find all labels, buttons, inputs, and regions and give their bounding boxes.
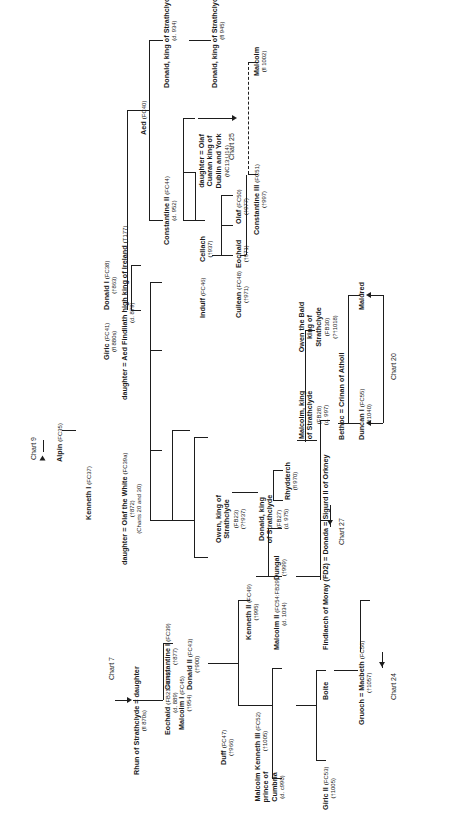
person-dates: (d. c990) [279,764,286,810]
person-olaf-fc50[interactable]: Olaf (FC50) (†977) [235,189,250,224]
person-cuilean[interactable]: Cuilean (FC48) (†971) [235,271,250,318]
person-ref: (FC46) [200,277,206,296]
connector-line [198,118,232,119]
connector-line [150,282,151,520]
person-name: Duff [219,750,228,765]
person-owen-the-bald[interactable]: Owen the Bald king of Strathclyde (FB30)… [298,299,339,355]
person-ref: (FC38) [104,261,110,280]
person-name: Giric II [321,787,330,810]
person-findlaech-donada-sigurd[interactable]: Findlaech of Moray (FD2) = Donada = Sigu… [322,454,330,650]
person-duncan-i[interactable]: Duncan I (FC55) (†1040) [358,389,373,440]
person-kenneth-i[interactable]: Kenneth I (FC37) [85,466,93,520]
chart24-arrow-icon [379,662,385,667]
person-bethoc-crinan[interactable]: Bethoc = Crinan of Atholl [338,353,346,440]
person-ref: (FB30) [324,318,330,336]
connector-line [195,172,196,220]
connector-line [164,520,194,521]
person-dates: (†999) [281,555,288,580]
person-dates: (fl 1002) [261,47,268,76]
person-malcolm-ii[interactable]: Malcolm II (FC54:FB29) (d. 1034) [273,578,288,650]
connector-line [183,220,195,221]
connector-line [296,576,320,577]
person-dates: (†900) [194,639,201,691]
person-constantine-ii[interactable]: Constantine II (FC44) (d. 952) [163,176,178,245]
person-malcolm-fl1002[interactable]: Malcolm (fl 1002) [253,47,268,76]
connector-line [149,40,163,41]
connector-line [43,440,44,452]
xref-chart7[interactable]: Chart 7 [108,657,116,680]
person-ref: (FC53) [323,767,329,786]
person-name: Owen the Bald king of Strathclyde [297,302,323,353]
xref-chart25[interactable]: Chart 25 [228,133,236,160]
connector-line [194,557,208,558]
person-dates: (d. 997) [323,390,330,440]
connector-line [183,118,184,220]
person-donald-strathclyde-fb24[interactable]: Donald, king of Strathclyde (FB24) (fl 9… [211,0,226,88]
person-donald-strathclyde-fb27[interactable]: Donald, king of Strathclyde (FB27) (d. 9… [258,493,290,545]
person-ref: (FC45) [179,676,185,695]
person-name: Findlaech of Moray (FD2) = Donada = Sigu… [321,454,330,650]
connector-line [256,576,268,577]
person-malcolm-strathclyde-fb28[interactable]: Malcolm, king of Strathclyde (FB28) (d. … [298,390,330,440]
person-malcolm-i[interactable]: Malcolm I (FC45) (†954) [178,676,193,730]
connector-line [183,118,195,119]
connector-line [272,668,282,669]
xref-chart24[interactable]: Chart 24 [390,673,398,700]
person-indulf[interactable]: Indulf (FC46) [199,277,207,318]
connector-line [383,295,384,423]
person-dungal[interactable]: Dungal (†999) [273,555,288,580]
person-daughter-olaf-the-white[interactable]: daughter = Olaf the White (FC39a) (†872)… [121,452,144,565]
person-gruoch-macbeth[interactable]: Gruoch = Macbeth (FC56) (†1057) [358,641,373,725]
person-dates: (d. 975) [283,493,290,545]
person-maldred[interactable]: Maldred [358,282,366,310]
connector-line [150,450,162,451]
person-cellach[interactable]: Cellach (†937) [199,236,214,262]
person-ref: (FC41) [104,323,110,342]
person-dates: (†1057) [366,641,373,725]
xref-chart9[interactable]: Chart 9 [30,437,38,460]
person-dates: (?†937) [240,493,247,545]
person-dates: (d. 1034) [281,578,288,650]
person-duff[interactable]: Duff (FC47) (†966) [220,730,235,765]
person-eochaid-971[interactable]: Eochaid (†971) [235,240,250,268]
chart9-arrow-icon [40,456,46,461]
person-kenneth-ii[interactable]: Kenneth II (FC49) (†995) [245,584,260,640]
person-alpin[interactable]: Alpin (FC35) [56,423,64,462]
connector-line [221,225,233,226]
connector-line [195,220,205,221]
person-ref: (FC50) [236,189,242,208]
person-boite[interactable]: Boite [322,682,330,700]
person-dates: (d. 879) [129,226,136,400]
person-name: Duncan I [357,409,366,440]
person-ref: (FC37) [86,466,92,485]
person-owen-strathclyde-fb23[interactable]: Owen, king of Strathclyde (FB23) (?†937) [215,493,247,545]
connector-line [150,520,164,521]
person-donald-strathclyde-fb22[interactable]: Donald, king of Strathclyde (FB22) (d. 9… [163,0,178,88]
person-ref: (FC55) [359,389,365,408]
xref-chart20[interactable]: Chart 20 [390,353,398,380]
person-malcolm-prince-of-cumbria[interactable]: Malcolm prince of Cumbria (d. c990) [254,764,286,810]
person-daughter-olaf-cuaran[interactable]: daughter = Olaf Cuaran king of Dublin an… [198,132,232,190]
connector-line [360,600,370,601]
person-dates: (d. 934) [171,0,178,88]
person-rhun-of-strathclyde[interactable]: Rhun of Strathclyde = daughter (fl 870s) [133,666,148,775]
connector-line [316,670,326,671]
person-name: Rhun of Strathclyde = daughter [132,666,141,775]
xref-chart27[interactable]: Chart 27 [338,518,346,545]
person-giric-ii[interactable]: Giric II (FC53) (†1005) [322,767,337,810]
person-aed[interactable]: Aed (FC40) [140,101,148,135]
person-constantine-iii[interactable]: Constantine III (FC51) (†997) [253,164,268,235]
person-dates: (fl 880s) [111,323,118,360]
person-kenneth-iii[interactable]: Kenneth III (FC52) (†1005) [254,712,269,770]
person-dates: (†995) [253,584,260,640]
connector-line [238,705,250,706]
connector-line [208,663,238,664]
connector-line [189,40,211,41]
person-name: Malcolm I [177,697,186,730]
person-giric[interactable]: Giric (FC41) (fl 880s) [103,323,118,360]
person-rhydderch[interactable]: Rhydderch (fl 970) [284,462,299,500]
person-name: Dungal [272,555,281,580]
person-donald-i[interactable]: Donald I (FC38) (†863) [103,261,118,310]
person-daughter-aed-findliath[interactable]: daughter = Aed Findliath high king of Ir… [121,226,136,400]
person-name: Kenneth I [84,487,93,520]
